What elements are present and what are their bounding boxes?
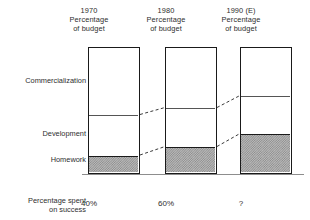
category-label-commercialization: Commercialization: [0, 76, 86, 85]
footer-value-1980: 60%: [127, 199, 205, 208]
bar-1980: [165, 47, 217, 174]
footer-value-1970: 40%: [50, 199, 128, 208]
column-header-line3: of budget: [202, 24, 280, 33]
column-header-line3: of budget: [50, 24, 128, 33]
connector-upper-1980-1990: [217, 96, 240, 108]
column-header-year: 1980: [127, 6, 205, 15]
column-header-line3: of budget: [127, 24, 205, 33]
column-header-year: 1970: [50, 6, 128, 15]
column-header-line2: Percentage: [202, 15, 280, 24]
column-header-1990: 1990 (E) Percentage of budget: [202, 6, 280, 34]
bar-1990: [240, 47, 292, 174]
connector-lower-1980-1990: [217, 134, 240, 147]
category-label-homework: Homework: [0, 155, 86, 164]
column-header-1980: 1980 Percentage of budget: [127, 6, 205, 34]
connector-lower-1970-1980: [140, 147, 165, 156]
segment-homework-1990: [241, 134, 290, 172]
connector-upper-1970-1980: [140, 108, 165, 115]
stacked-bar-chart: 1970 Percentage of budget 1980 Percentag…: [0, 0, 310, 220]
column-header-line2: Percentage: [127, 15, 205, 24]
divider-commercialization-development-1980: [166, 108, 215, 109]
column-header-line2: Percentage: [50, 15, 128, 24]
baseline-axis: [82, 174, 304, 175]
divider-commercialization-development-1970: [89, 115, 138, 116]
category-label-development: Development: [0, 129, 86, 138]
segment-homework-1980: [166, 147, 215, 172]
column-header-year: 1990 (E): [202, 6, 280, 15]
column-header-1970: 1970 Percentage of budget: [50, 6, 128, 34]
segment-homework-1970: [89, 156, 138, 173]
footer-value-1990: ?: [202, 199, 280, 208]
divider-commercialization-development-1990: [241, 96, 290, 97]
bar-1970: [88, 47, 140, 174]
